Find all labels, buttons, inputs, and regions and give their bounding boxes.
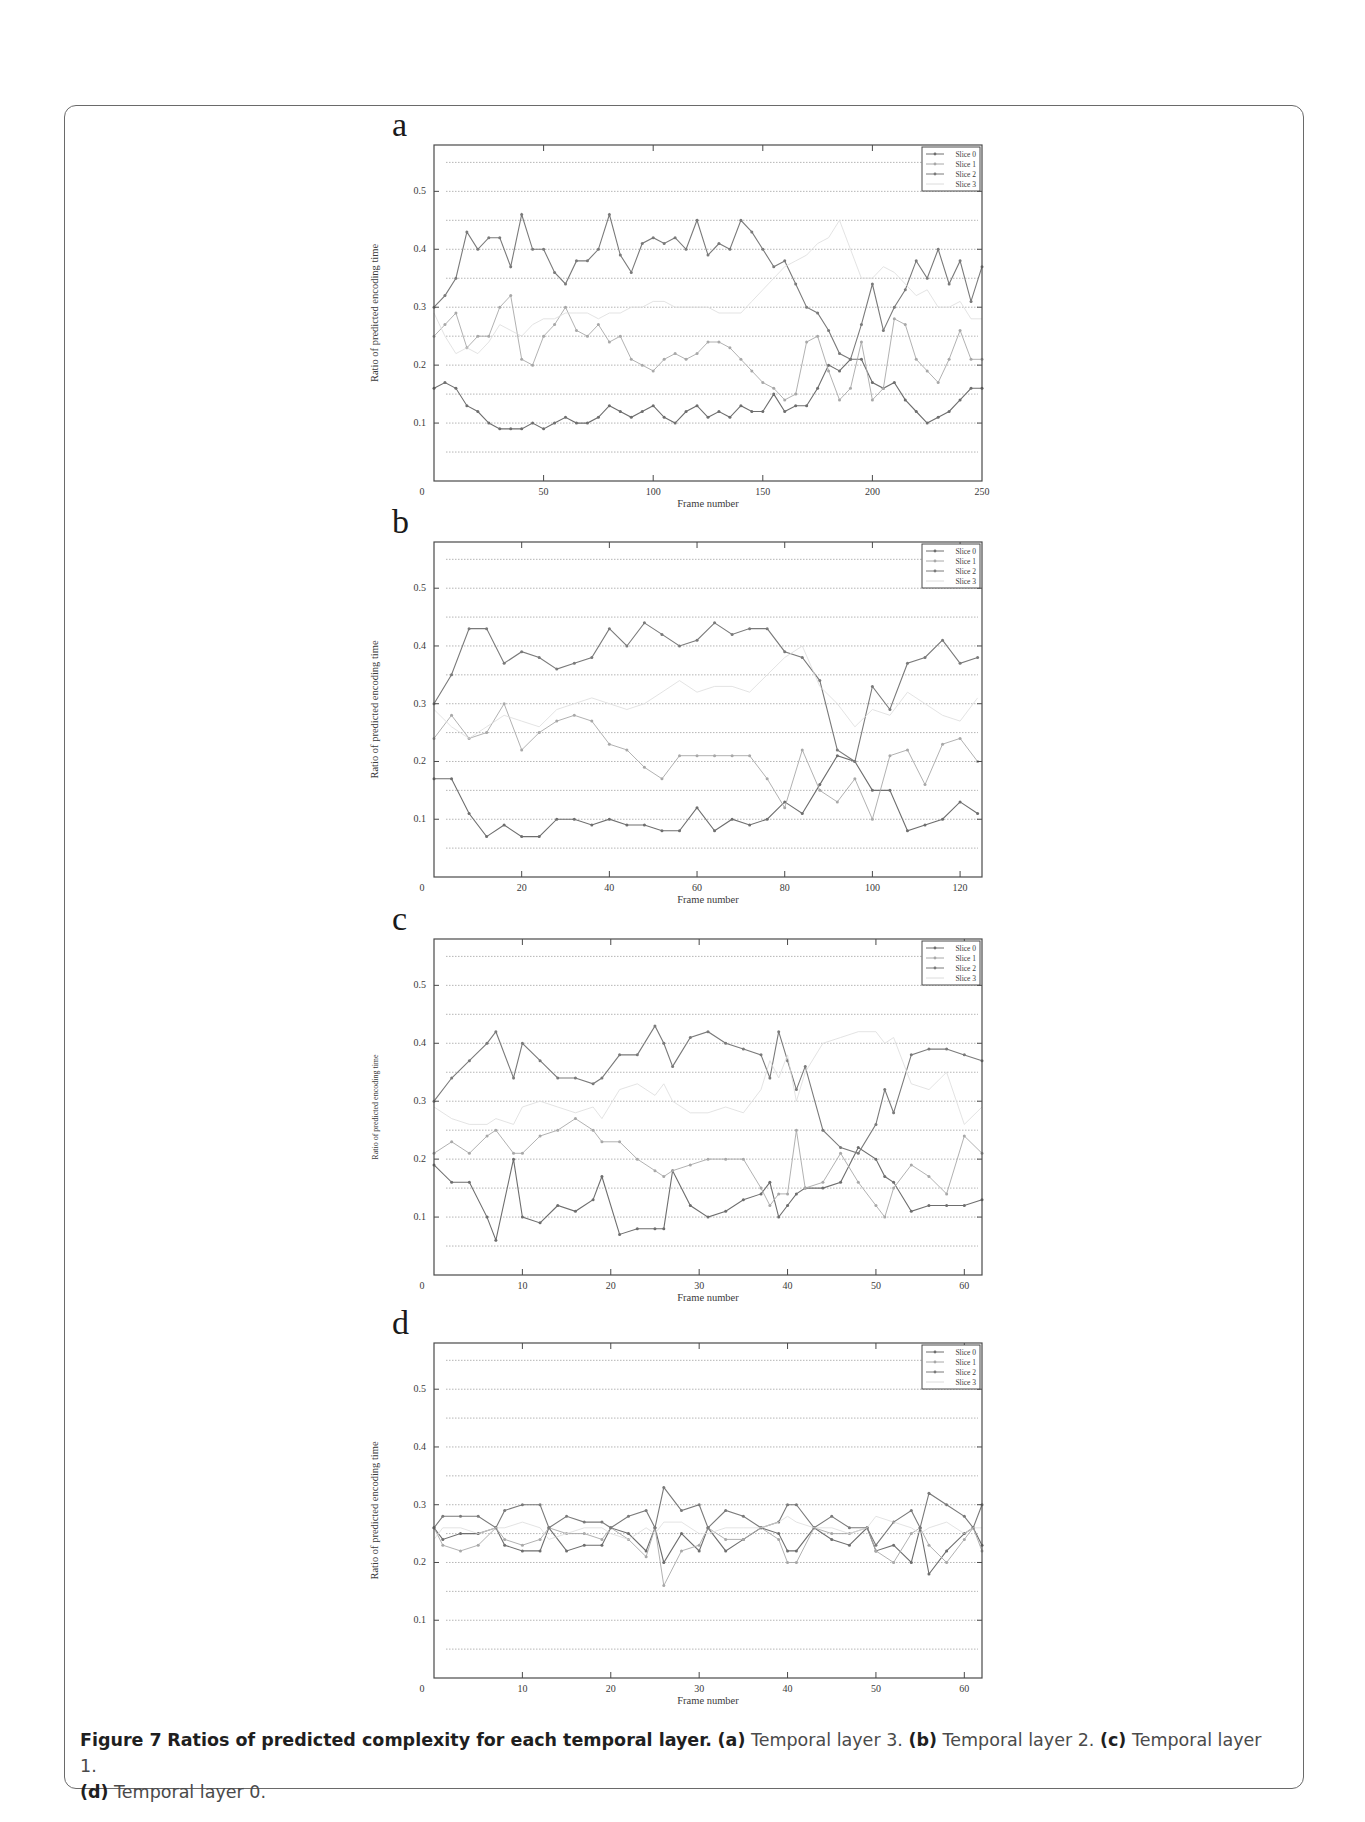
x-tick-label: 30 — [694, 1280, 704, 1291]
y-tick-label: 0.4 — [414, 1441, 427, 1452]
legend-entry: Slice 3 — [955, 1378, 976, 1387]
y-tick-label: 0.3 — [414, 301, 427, 312]
legend-entry: Slice 2 — [955, 170, 976, 179]
x-tick-label: 30 — [694, 1683, 704, 1694]
y-tick-label: 0.3 — [414, 698, 427, 709]
caption-tag-a: (a) — [718, 1730, 746, 1750]
panel-label-d: d — [392, 1306, 409, 1340]
legend: Slice 0Slice 1Slice 2Slice 3 — [922, 941, 980, 985]
x-tick-label: 40 — [783, 1280, 793, 1291]
y-tick-label: 0.5 — [414, 582, 427, 593]
series-slice-3 — [434, 1032, 982, 1125]
chart-c: 01020304050600.10.20.30.40.5Frame number… — [434, 939, 982, 1275]
legend-entry: Slice 1 — [955, 557, 976, 566]
legend-entry: Slice 0 — [955, 150, 976, 159]
figure-label: Figure 7 — [80, 1730, 162, 1750]
caption-text-a: Temporal layer 3. — [751, 1730, 903, 1750]
series-slice-1 — [433, 294, 984, 401]
chart-d: 01020304050600.10.20.30.40.5Frame number… — [434, 1343, 982, 1678]
series-slice-2 — [433, 1486, 984, 1547]
y-tick-label: 0.4 — [414, 640, 427, 651]
x-axis-label: Frame number — [677, 498, 739, 509]
y-tick-label: 0.3 — [414, 1095, 427, 1106]
legend-entry: Slice 0 — [955, 944, 976, 953]
caption-tag-d: (d) — [80, 1782, 109, 1802]
caption-text-b: Temporal layer 2. — [943, 1730, 1095, 1750]
legend: Slice 0Slice 1Slice 2Slice 3 — [922, 544, 980, 588]
series-slice-0 — [433, 754, 980, 838]
x-tick-label: 200 — [865, 486, 880, 497]
x-tick-label: 250 — [975, 486, 990, 497]
figure-caption: Figure 7 Ratios of predicted complexity … — [80, 1727, 1280, 1805]
legend-entry: Slice 2 — [955, 964, 976, 973]
chart-a: 0501001502002500.10.20.30.40.5Frame numb… — [434, 145, 982, 481]
y-tick-label: 0.4 — [414, 1037, 427, 1048]
legend: Slice 0Slice 1Slice 2Slice 3 — [922, 147, 980, 191]
y-tick-label: 0.1 — [414, 1211, 427, 1222]
series-slice-2 — [433, 621, 980, 763]
panel-label-c: c — [392, 902, 407, 936]
legend: Slice 0Slice 1Slice 2Slice 3 — [922, 1345, 980, 1389]
caption-text-d: Temporal layer 0. — [114, 1782, 266, 1802]
plot-border — [434, 542, 982, 877]
x-tick-label: 60 — [959, 1683, 969, 1694]
x-tick-label: 150 — [755, 486, 770, 497]
panel-label-a: a — [392, 108, 407, 142]
y-tick-label: 0.5 — [414, 1383, 427, 1394]
y-tick-label: 0.1 — [414, 417, 427, 428]
x-tick-label: 0 — [420, 882, 425, 893]
caption-tag-b: (b) — [908, 1730, 937, 1750]
x-tick-label: 0 — [420, 1280, 425, 1291]
chart-b: 0204060801001200.10.20.30.40.5Frame numb… — [434, 542, 982, 877]
x-tick-label: 120 — [953, 882, 968, 893]
series-slice-2 — [433, 1024, 984, 1154]
x-axis-label: Frame number — [677, 1695, 739, 1706]
y-axis-label: Ratio of predicted encoding time — [371, 1054, 380, 1160]
x-axis-label: Frame number — [677, 894, 739, 905]
plot-border — [434, 939, 982, 1275]
y-tick-label: 0.2 — [414, 755, 427, 766]
x-tick-label: 40 — [604, 882, 614, 893]
y-axis-label: Ratio of predicted encoding time — [369, 640, 380, 779]
x-tick-label: 100 — [865, 882, 880, 893]
x-tick-label: 80 — [780, 882, 790, 893]
y-tick-label: 0.2 — [414, 359, 427, 370]
x-tick-label: 50 — [871, 1280, 881, 1291]
y-tick-label: 0.2 — [414, 1153, 427, 1164]
x-tick-label: 50 — [871, 1683, 881, 1694]
x-tick-label: 60 — [692, 882, 702, 893]
legend-entry: Slice 2 — [955, 567, 976, 576]
legend-entry: Slice 3 — [955, 577, 976, 586]
legend-entry: Slice 0 — [955, 1348, 976, 1357]
x-axis-label: Frame number — [677, 1292, 739, 1303]
x-tick-label: 20 — [606, 1280, 616, 1291]
x-tick-label: 50 — [539, 486, 549, 497]
x-tick-label: 10 — [517, 1683, 527, 1694]
x-tick-label: 20 — [606, 1683, 616, 1694]
x-tick-label: 40 — [783, 1683, 793, 1694]
gridlines — [446, 956, 978, 1246]
x-tick-label: 10 — [517, 1280, 527, 1291]
series-slice-1 — [433, 1526, 984, 1587]
gridlines — [446, 162, 978, 452]
y-tick-label: 0.5 — [414, 979, 427, 990]
panel-label-b: b — [392, 505, 409, 539]
x-tick-label: 0 — [420, 1683, 425, 1694]
y-axis-label: Ratio of predicted encoding time — [369, 1441, 380, 1580]
caption-tag-c: (c) — [1100, 1730, 1126, 1750]
y-tick-label: 0.2 — [414, 1556, 427, 1567]
legend-entry: Slice 3 — [955, 180, 976, 189]
y-axis-label: Ratio of predicted encoding time — [369, 244, 380, 383]
y-tick-label: 0.3 — [414, 1499, 427, 1510]
y-tick-label: 0.1 — [414, 1614, 427, 1625]
series-slice-2 — [433, 213, 984, 361]
legend-entry: Slice 1 — [955, 1358, 976, 1367]
legend-entry: Slice 0 — [955, 547, 976, 556]
legend-entry: Slice 1 — [955, 160, 976, 169]
legend-entry: Slice 3 — [955, 974, 976, 983]
x-tick-label: 20 — [517, 882, 527, 893]
y-tick-label: 0.5 — [414, 185, 427, 196]
plot-border — [434, 145, 982, 481]
y-tick-label: 0.4 — [414, 243, 427, 254]
y-tick-label: 0.1 — [414, 813, 427, 824]
